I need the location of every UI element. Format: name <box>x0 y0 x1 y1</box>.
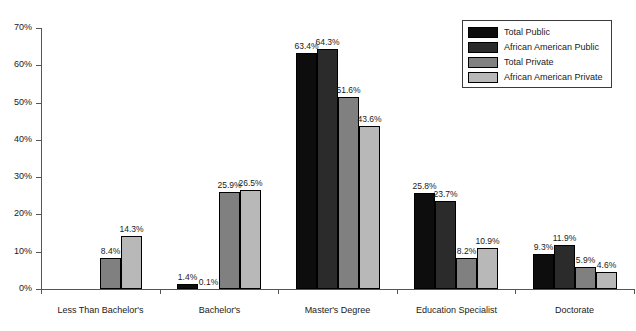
bar <box>596 272 617 289</box>
legend-swatch-icon <box>468 27 498 38</box>
bar <box>219 192 240 289</box>
y-axis-tick-label: 10% <box>0 247 32 256</box>
bar-value-label: 51.6% <box>330 86 367 95</box>
y-axis-tick-label: 0% <box>0 284 32 293</box>
bar <box>575 267 596 289</box>
x-axis-category-label: Bachelor's <box>160 305 279 315</box>
bar-value-label: 4.6% <box>588 261 625 270</box>
bar <box>533 254 554 289</box>
bar <box>338 97 359 289</box>
y-axis-tick-label: 20% <box>0 209 32 218</box>
x-axis-line <box>41 289 634 290</box>
bar <box>435 201 456 289</box>
legend-item-label: African American Public <box>504 42 599 52</box>
bar <box>359 126 380 289</box>
legend-item[interactable]: African American Public <box>468 40 606 54</box>
y-axis-tick-label: 50% <box>0 98 32 107</box>
y-axis-tick-label: 40% <box>0 135 32 144</box>
bar-value-label: 23.7% <box>427 190 464 199</box>
legend-swatch-icon <box>468 72 498 83</box>
x-axis-tick-mark <box>397 289 398 294</box>
bar-value-label: 11.9% <box>546 234 583 243</box>
x-axis-tick-mark <box>278 289 279 294</box>
y-axis-tick-label: 70% <box>0 23 32 32</box>
x-axis-category-label: Doctorate <box>515 305 634 315</box>
legend-item[interactable]: Total Public <box>468 25 606 39</box>
bar-value-label: 64.3% <box>309 38 346 47</box>
bar-value-label: 43.6% <box>351 115 388 124</box>
bar <box>317 49 338 289</box>
legend-item[interactable]: Total Private <box>468 55 606 69</box>
bar <box>554 245 575 289</box>
chart-legend: Total PublicAfrican American PublicTotal… <box>462 20 612 88</box>
legend-swatch-icon <box>468 42 498 53</box>
y-axis-line <box>41 28 42 290</box>
x-axis-tick-mark <box>41 289 42 294</box>
bar-value-label: 14.3% <box>113 225 150 234</box>
y-axis-tick-label: 30% <box>0 172 32 181</box>
bar <box>456 258 477 289</box>
x-axis-tick-mark <box>515 289 516 294</box>
y-axis-tick-label: 60% <box>0 60 32 69</box>
bar <box>240 190 261 289</box>
bar <box>100 258 121 289</box>
legend-item-label: African American Private <box>504 72 603 82</box>
bar <box>121 236 142 289</box>
x-axis-tick-mark <box>634 289 635 294</box>
bar <box>414 193 435 289</box>
legend-item-label: Total Public <box>504 27 550 37</box>
x-axis-category-label: Education Specialist <box>397 305 516 315</box>
legend-swatch-icon <box>468 57 498 68</box>
x-axis-category-label: Less Than Bachelor's <box>41 305 160 315</box>
bar <box>296 53 317 289</box>
bar-chart: 0%10%20%30%40%50%60%70% 8.4%14.3%1.4%0.1… <box>0 0 636 331</box>
legend-item[interactable]: African American Private <box>468 70 606 84</box>
x-axis-tick-mark <box>160 289 161 294</box>
legend-item-label: Total Private <box>504 57 554 67</box>
bar <box>477 248 498 289</box>
bar-value-label: 26.5% <box>232 179 269 188</box>
bar-value-label: 10.9% <box>469 237 506 246</box>
x-axis-category-label: Master's Degree <box>278 305 397 315</box>
